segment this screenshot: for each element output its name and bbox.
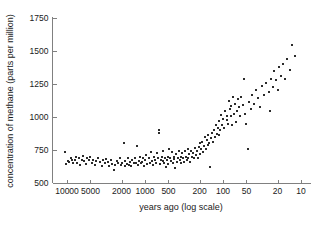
scatter-point xyxy=(164,157,166,159)
scatter-point xyxy=(179,159,181,161)
scatter-point xyxy=(236,110,238,112)
scatter-point xyxy=(217,127,219,129)
scatter-point xyxy=(187,157,189,159)
scatter-point xyxy=(220,114,222,116)
scatter-point xyxy=(81,159,83,161)
scatter-point xyxy=(211,132,213,134)
scatter-point xyxy=(176,161,178,163)
x-tick-label: 2000 xyxy=(112,186,131,196)
scatter-point xyxy=(235,121,237,123)
scatter-point xyxy=(216,133,218,135)
scatter-point xyxy=(278,66,280,68)
scatter-point xyxy=(253,103,255,105)
scatter-point xyxy=(113,169,115,171)
scatter-point xyxy=(205,148,207,150)
scatter-point xyxy=(145,154,147,156)
scatter-point xyxy=(126,163,128,165)
scatter-point xyxy=(191,156,193,158)
scatter-point xyxy=(83,160,85,162)
scatter-point xyxy=(180,162,182,164)
scatter-point xyxy=(171,151,173,153)
scatter-point xyxy=(219,129,221,131)
scatter-point xyxy=(198,146,200,148)
x-axis-ticks: 10000500020001000500200100502010 xyxy=(55,180,306,196)
scatter-point xyxy=(182,157,184,159)
scatter-point xyxy=(169,157,171,159)
scatter-point xyxy=(143,165,145,167)
scatter-point xyxy=(275,79,277,81)
scatter-point xyxy=(137,164,139,166)
y-tick-label: 1750 xyxy=(30,13,49,23)
scatter-point xyxy=(149,162,151,164)
scatter-point xyxy=(134,157,136,159)
scatter-point xyxy=(71,159,73,161)
scatter-point xyxy=(197,157,199,159)
scatter-point xyxy=(174,167,176,169)
x-tick-label: 200 xyxy=(192,186,206,196)
scatter-point xyxy=(99,161,101,163)
scatter-point xyxy=(248,101,250,103)
scatter-point xyxy=(206,139,208,141)
scatter-point xyxy=(150,151,152,153)
scatter-point xyxy=(199,153,201,155)
scatter-point xyxy=(89,156,91,158)
scatter-point xyxy=(213,129,215,131)
y-axis-title-text: concentration of methane (parts per mill… xyxy=(5,14,15,188)
x-tick-label: 100 xyxy=(216,186,230,196)
scatter-point xyxy=(261,85,263,87)
scatter-point xyxy=(185,156,187,158)
scatter-point xyxy=(204,136,206,138)
scatter-point xyxy=(190,150,192,152)
scatter-point xyxy=(196,150,198,152)
chart-canvas: concentration of methane (parts per mill… xyxy=(0,0,319,225)
scatter-point xyxy=(173,156,175,158)
scatter-point xyxy=(139,156,141,158)
scatter-point xyxy=(257,97,259,99)
scatter-point xyxy=(138,160,140,162)
scatter-point xyxy=(124,160,126,162)
scatter-point xyxy=(239,115,241,117)
scatter-point xyxy=(294,55,296,57)
x-tick-label: 50 xyxy=(242,186,252,196)
scatter-point xyxy=(247,148,249,150)
scatter-point xyxy=(153,156,155,158)
scatter-point xyxy=(291,44,293,46)
scatter-point xyxy=(178,150,180,152)
scatter-point xyxy=(207,144,209,146)
scatter-point xyxy=(75,156,77,158)
scatter-point xyxy=(114,164,116,166)
scatter-point xyxy=(175,153,177,155)
scatter-point xyxy=(218,120,220,122)
scatter-point xyxy=(82,155,84,157)
scatter-point xyxy=(64,151,66,153)
scatter-point xyxy=(237,98,239,100)
scatter-point xyxy=(86,157,88,159)
scatter-point xyxy=(156,152,158,154)
scatter-point xyxy=(242,104,244,106)
scatter-point xyxy=(142,157,144,159)
scatter-point xyxy=(163,162,165,164)
scatter-point xyxy=(141,161,143,163)
scatter-point xyxy=(195,154,197,156)
y-tick-label: 1000 xyxy=(30,112,49,122)
scatter-point xyxy=(200,148,202,150)
scatter-point xyxy=(72,162,74,164)
scatter-point xyxy=(192,152,194,154)
y-tick-label: 750 xyxy=(34,145,48,155)
scatter-point xyxy=(268,91,270,93)
scatter-point xyxy=(269,110,271,112)
scatter-point xyxy=(162,160,164,162)
x-tick-label: 10000 xyxy=(55,186,79,196)
scatter-point xyxy=(151,160,153,162)
scatter-point xyxy=(136,145,138,147)
scatter-point xyxy=(146,163,148,165)
x-tick-label: 10 xyxy=(296,186,306,196)
scatter-point xyxy=(160,159,162,161)
scatter-point xyxy=(199,142,201,144)
scatter-point xyxy=(121,162,123,164)
scatter-point xyxy=(240,96,242,98)
scatter-point xyxy=(119,157,121,159)
scatter-point xyxy=(157,157,159,159)
scatter-point xyxy=(221,124,223,126)
x-tick-label: 500 xyxy=(161,186,175,196)
